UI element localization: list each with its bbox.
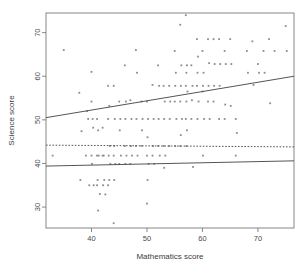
data-point [258, 72, 260, 74]
data-point [286, 50, 288, 52]
data-point [246, 50, 248, 52]
data-point [142, 118, 144, 120]
data-point [253, 84, 255, 86]
data-point [213, 38, 215, 40]
data-point [107, 85, 109, 87]
data-point [185, 14, 187, 16]
data-point [96, 155, 98, 157]
data-point [80, 179, 82, 181]
data-point [229, 38, 231, 40]
data-point [129, 99, 131, 101]
data-point [208, 62, 210, 64]
y-axis-tick-label: 30 [34, 203, 43, 211]
data-point [92, 127, 94, 129]
data-point [158, 118, 160, 120]
data-point [169, 101, 171, 103]
data-point [268, 38, 270, 40]
data-point [124, 118, 126, 120]
data-point [88, 184, 90, 186]
data-point [125, 101, 127, 103]
data-point [158, 85, 160, 87]
data-point [96, 184, 98, 186]
data-point [264, 72, 266, 74]
data-point [179, 101, 181, 103]
data-point [203, 118, 205, 120]
data-point [164, 101, 166, 103]
data-point [119, 118, 121, 120]
data-point [146, 155, 148, 157]
data-point [119, 129, 121, 131]
data-point [235, 155, 237, 157]
data-point [124, 64, 126, 66]
data-point [87, 118, 89, 120]
x-axis-title: Mathematics score [136, 252, 204, 261]
x-axis-tick-label: 70 [254, 234, 262, 243]
data-point [257, 63, 259, 65]
data-point [141, 129, 143, 131]
data-point [196, 85, 198, 87]
data-point [113, 222, 115, 224]
data-point [157, 64, 159, 66]
data-point [175, 118, 177, 120]
data-point [187, 91, 189, 93]
data-point [230, 63, 232, 65]
data-point [147, 136, 149, 138]
data-point [192, 166, 194, 168]
data-point [93, 184, 95, 186]
data-point [214, 63, 216, 65]
data-point [102, 184, 104, 186]
data-point [174, 85, 176, 87]
data-point [52, 155, 54, 157]
data-point [219, 63, 221, 65]
data-point [213, 101, 215, 103]
data-point [190, 118, 192, 120]
data-point [174, 101, 176, 103]
data-point [113, 85, 115, 87]
data-point [218, 118, 220, 120]
data-point [99, 193, 101, 195]
data-point [159, 155, 161, 157]
data-point [197, 118, 199, 120]
y-axis-tick-label: 70 [34, 28, 43, 36]
data-point [225, 63, 227, 65]
data-point [190, 64, 192, 66]
data-point [97, 129, 99, 131]
data-point [202, 50, 204, 52]
data-point [91, 163, 93, 165]
data-point [235, 118, 237, 120]
data-point [135, 49, 137, 51]
data-point [78, 92, 80, 94]
data-point [186, 64, 188, 66]
y-axis-title: Science score [7, 95, 16, 146]
y-axis-tick-label: 40 [34, 159, 43, 167]
data-point [202, 85, 204, 87]
data-point [285, 25, 287, 27]
data-point [107, 184, 109, 186]
data-point [104, 194, 106, 196]
data-point [230, 105, 232, 107]
data-point [120, 155, 122, 157]
data-point [263, 50, 265, 52]
data-point [137, 155, 139, 157]
data-point [97, 210, 99, 212]
data-point [81, 130, 83, 132]
data-point [180, 64, 182, 66]
data-point [185, 118, 187, 120]
data-point [186, 129, 188, 131]
upper-regression-line [46, 76, 294, 117]
data-point [96, 118, 98, 120]
data-point [147, 179, 149, 181]
data-point [207, 38, 209, 40]
data-point [203, 72, 205, 74]
data-point [85, 155, 87, 157]
data-point [274, 50, 276, 52]
data-point [114, 118, 116, 120]
data-point [126, 155, 128, 157]
data-point [218, 38, 220, 40]
data-point [108, 179, 110, 181]
data-point [113, 179, 115, 181]
data-point [163, 118, 165, 120]
data-point [180, 134, 182, 136]
data-point [152, 155, 154, 157]
lower-regression-line [46, 161, 294, 166]
